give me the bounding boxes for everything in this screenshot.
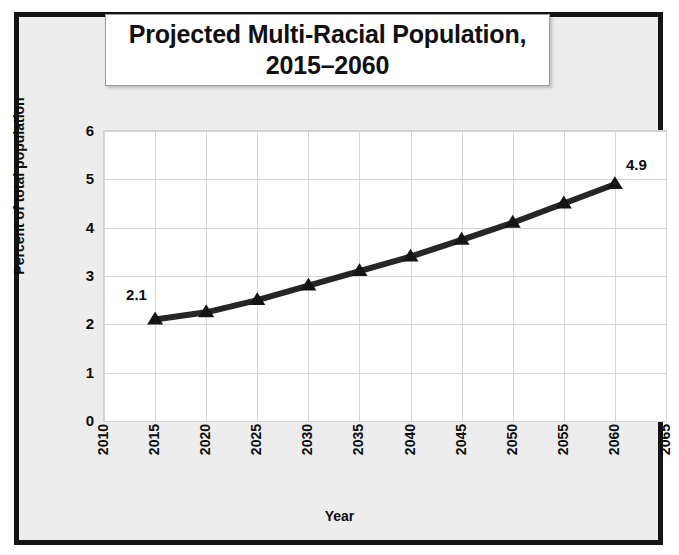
- x-tick-label: 2045: [453, 424, 469, 455]
- series-layer: [104, 131, 666, 421]
- y-tick-label: 6: [66, 122, 94, 139]
- y-tick-label: 1: [66, 363, 94, 380]
- x-tick-label: 2020: [197, 424, 213, 455]
- chart-title-line-2: 2015–2060: [266, 50, 389, 81]
- x-tick-label: 2060: [606, 424, 622, 455]
- series-line: [155, 184, 615, 319]
- x-axis-tick-labels: 2010201520202025203020352040204520502055…: [103, 424, 665, 490]
- y-tick-label: 2: [66, 315, 94, 332]
- series-markers: [147, 176, 623, 324]
- chart-title-line-1: Projected Multi-Racial Population,: [129, 19, 526, 50]
- y-tick-label: 4: [66, 218, 94, 235]
- gridline-horizontal: [104, 421, 666, 422]
- y-tick-label: 0: [66, 412, 94, 429]
- x-tick-label: 2025: [248, 424, 264, 455]
- plot-area: [103, 130, 667, 422]
- x-tick-label: 2065: [657, 424, 673, 455]
- data-point-marker: [607, 176, 623, 189]
- data-point-label: 4.9: [626, 156, 647, 173]
- y-tick-label: 3: [66, 267, 94, 284]
- data-point-label: 2.1: [126, 286, 147, 303]
- y-axis-tick-labels: 0123456: [60, 130, 94, 420]
- x-tick-label: 2035: [350, 424, 366, 455]
- x-axis-title: Year: [0, 508, 679, 524]
- x-tick-label: 2010: [95, 424, 111, 455]
- gridline-vertical: [666, 131, 667, 421]
- chart-title-box: Projected Multi-Racial Population, 2015–…: [105, 14, 550, 86]
- chart-figure: Projected Multi-Racial Population, 2015–…: [0, 0, 679, 555]
- x-tick-label: 2040: [402, 424, 418, 455]
- y-tick-label: 5: [66, 170, 94, 187]
- x-tick-label: 2030: [299, 424, 315, 455]
- x-tick-label: 2055: [555, 424, 571, 455]
- x-tick-label: 2015: [146, 424, 162, 455]
- x-tick-label: 2050: [504, 424, 520, 455]
- y-axis-title: Percent of total population: [11, 86, 27, 286]
